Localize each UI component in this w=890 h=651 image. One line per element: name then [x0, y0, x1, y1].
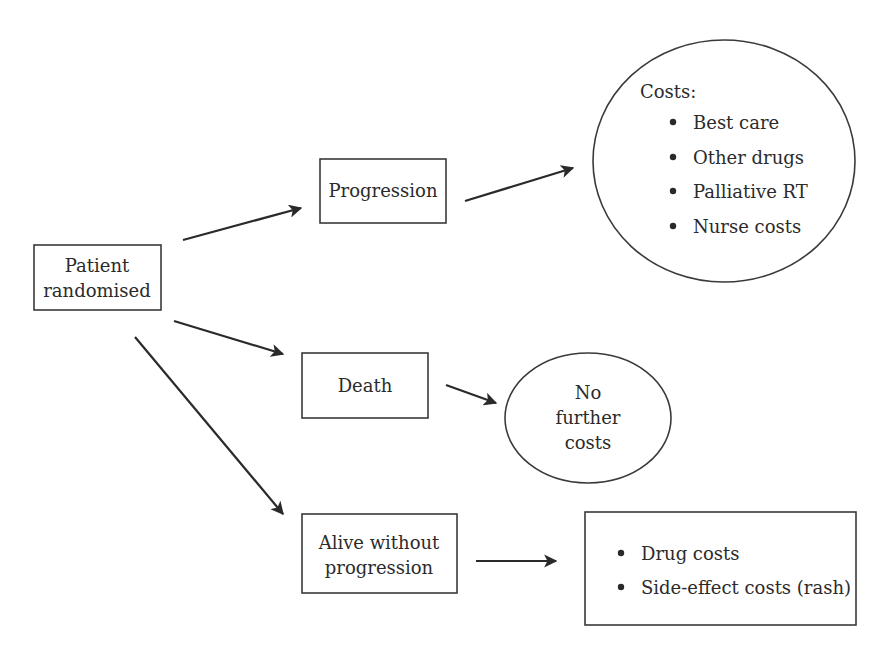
- node-progression: Progression: [320, 159, 446, 223]
- patient-label-line1: Patient: [65, 255, 130, 276]
- no-further-costs-line1: No: [575, 382, 602, 403]
- alive-label-line1: Alive without: [318, 532, 440, 553]
- alive-label-line2: progression: [325, 557, 434, 578]
- cost-item-other-drugs: Other drugs: [693, 147, 804, 168]
- no-further-costs-line2: further: [556, 407, 621, 428]
- arrow-patient-to-alive: [135, 337, 283, 514]
- cost-item-palliative-rt: Palliative RT: [693, 181, 808, 202]
- arrow-patient-to-death: [174, 321, 283, 354]
- node-no-further-costs: No further costs: [505, 353, 671, 483]
- node-patient-randomised: Patient randomised: [34, 245, 161, 310]
- arrow-death-to-no-further-costs: [446, 385, 496, 403]
- cost-item-best-care: Best care: [693, 112, 779, 133]
- progression-label: Progression: [329, 180, 438, 201]
- node-progression-costs: Costs: Best care Other drugs Palliative …: [593, 40, 855, 282]
- alive-box: [302, 514, 457, 593]
- bullet-icon: [670, 223, 676, 229]
- cost-item-side-effect-costs: Side-effect costs (rash): [641, 577, 851, 598]
- decision-tree-diagram: Patient randomised Progression Death Ali…: [0, 0, 890, 651]
- arrow-progression-to-costs: [465, 168, 573, 201]
- node-death: Death: [302, 353, 428, 418]
- patient-label-line2: randomised: [43, 280, 151, 301]
- death-label: Death: [338, 375, 393, 396]
- cost-item-drug-costs: Drug costs: [641, 543, 740, 564]
- no-further-costs-line3: costs: [565, 432, 612, 453]
- arrow-patient-to-progression: [183, 208, 301, 240]
- node-alive-costs: Drug costs Side-effect costs (rash): [585, 512, 856, 625]
- bullet-icon: [670, 188, 676, 194]
- node-alive-without-progression: Alive without progression: [302, 514, 457, 593]
- costs-heading: Costs:: [640, 81, 696, 102]
- bullet-icon: [670, 119, 676, 125]
- bullet-icon: [618, 550, 624, 556]
- bullet-icon: [670, 154, 676, 160]
- bullet-icon: [618, 584, 624, 590]
- cost-item-nurse-costs: Nurse costs: [693, 216, 801, 237]
- alive-costs-box: [585, 512, 856, 625]
